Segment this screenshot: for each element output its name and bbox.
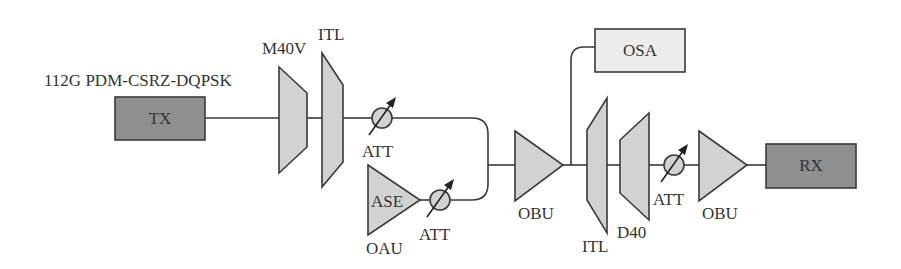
osa-block: OSA	[595, 29, 685, 72]
rx-label: RX	[799, 156, 823, 175]
att1-label: ATT	[362, 142, 394, 161]
itl-rx-label: ITL	[582, 237, 608, 256]
oau-label: OAU	[366, 239, 403, 258]
m40v-mux: M40V	[262, 39, 307, 173]
tx-block: TX	[115, 97, 205, 140]
ase-source: ASE OAU	[366, 165, 420, 258]
optical-link-diagram: 112G PDM-CSRZ-DQPSK TX M40V ITL ATT ASE …	[0, 0, 901, 269]
ase-label: ASE	[371, 192, 403, 211]
d40-label: D40	[617, 223, 646, 242]
obu2-label: OBU	[702, 204, 738, 223]
att2-label: ATT	[419, 225, 451, 244]
itl-tx-label: ITL	[318, 25, 344, 44]
obu1-amplifier: OBU	[515, 131, 563, 223]
arrow-icon	[678, 144, 688, 155]
wire-att1-coupler	[392, 118, 488, 200]
osa-label: OSA	[623, 41, 658, 60]
rx-block: RX	[766, 144, 856, 188]
obu2-amplifier: OBU	[699, 131, 747, 223]
tx-label: TX	[149, 109, 172, 128]
att1-attenuator: ATT	[362, 97, 396, 161]
arrow-icon	[386, 97, 396, 108]
att3-label: ATT	[653, 190, 685, 209]
arrow-icon	[444, 179, 454, 190]
att2-attenuator: ATT	[419, 179, 454, 244]
d40-demux: D40	[617, 113, 649, 242]
m40v-label: M40V	[262, 39, 307, 58]
modulation-format-label: 112G PDM-CSRZ-DQPSK	[44, 71, 233, 90]
itl-tx-interleaver: ITL	[318, 25, 344, 187]
itl-rx-interleaver: ITL	[582, 98, 608, 256]
att3-attenuator: ATT	[653, 144, 688, 209]
obu1-label: OBU	[518, 204, 554, 223]
